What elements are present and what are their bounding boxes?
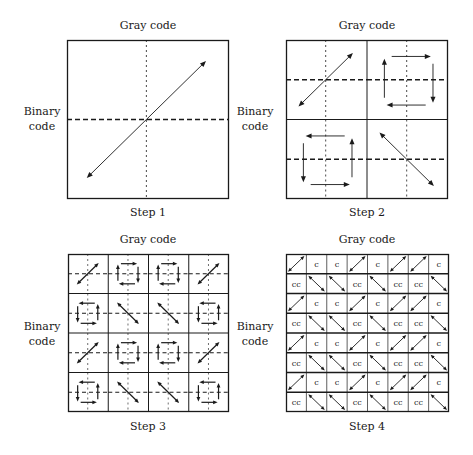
arrowhead xyxy=(79,301,84,305)
cell-double-arrow-antidiagonal-icon xyxy=(308,355,324,371)
double-arrow-antidiagonal-icon xyxy=(370,394,386,410)
double-arrow-diagonal-icon xyxy=(77,263,99,284)
arrowhead xyxy=(156,265,160,270)
arrow-shaft xyxy=(290,337,302,349)
cycle-arrow-up xyxy=(96,383,100,399)
clockwise-label: c xyxy=(335,339,340,348)
clockwise-label: c xyxy=(335,299,340,308)
cell-counterclockwise-cycle-icon: cc xyxy=(394,398,403,407)
double-arrow-diagonal-icon xyxy=(390,296,406,312)
cycle-arrow-down xyxy=(176,267,180,283)
cell-double-arrow-antidiagonal-icon xyxy=(370,315,386,331)
arrow-shaft xyxy=(433,357,445,369)
arrow-shaft xyxy=(412,376,424,388)
arrowhead xyxy=(306,133,312,138)
double-arrow-diagonal-icon xyxy=(390,375,406,391)
double-arrow-antidiagonal-icon xyxy=(431,394,447,410)
double-arrow-antidiagonal-icon xyxy=(370,315,386,331)
cycle-arrow-left xyxy=(79,301,95,305)
double-arrow-diagonal-icon xyxy=(410,296,426,312)
clockwise-cycle-icon xyxy=(382,54,436,108)
arrowhead xyxy=(430,97,435,103)
arrowhead xyxy=(213,321,218,325)
arrowhead xyxy=(76,397,80,402)
clockwise-label: c xyxy=(314,260,319,269)
step4-gray-code-label: Gray code xyxy=(286,233,448,246)
double-arrow-diagonal-icon xyxy=(288,375,304,391)
cell-double-arrow-diagonal-icon xyxy=(288,256,304,272)
arrow-shaft xyxy=(392,376,404,388)
cell-clockwise-cycle-icon: c xyxy=(314,378,319,387)
cycle-arrow-right xyxy=(121,262,137,266)
cycle-arrow-right xyxy=(161,262,177,266)
double-arrow-antidiagonal-icon xyxy=(308,355,324,371)
double-arrow-diagonal-icon xyxy=(349,375,365,391)
step1-binary-label: Binary xyxy=(12,105,72,118)
arrowhead xyxy=(79,380,84,384)
cycle-arrow-down xyxy=(136,267,140,283)
double-arrow-diagonal-icon xyxy=(77,342,99,363)
arrow-shaft xyxy=(392,297,404,309)
cell-counterclockwise-cycle-icon xyxy=(189,294,229,334)
arrow-shaft xyxy=(412,258,424,270)
arrow-shaft xyxy=(331,396,343,408)
double-arrow-antidiagonal-icon xyxy=(370,276,386,292)
arrowhead xyxy=(197,318,201,323)
step2-gray-code-label: Gray code xyxy=(286,19,448,32)
step2-panel xyxy=(286,40,448,199)
arrowhead xyxy=(199,301,204,305)
arrow-shaft xyxy=(433,396,445,408)
cell-counterclockwise-cycle-icon xyxy=(286,120,367,200)
cell-double-arrow-antidiagonal-icon xyxy=(431,355,447,371)
cell-double-arrow-diagonal-icon xyxy=(189,333,229,373)
arrowhead xyxy=(76,318,80,323)
cell-clockwise-cycle-icon: c xyxy=(335,299,340,308)
cell-clockwise-cycle-icon xyxy=(149,254,189,294)
double-arrow-diagonal-icon xyxy=(410,256,426,272)
arrowhead xyxy=(387,103,393,108)
cell-clockwise-cycle-icon: c xyxy=(335,339,340,348)
counterclockwise-label: cc xyxy=(292,359,301,368)
cell-double-arrow-diagonal-icon xyxy=(288,375,304,391)
cell-double-arrow-diagonal-icon xyxy=(410,335,426,351)
arrow-shaft xyxy=(331,278,343,290)
cell-counterclockwise-cycle-icon: cc xyxy=(292,359,301,368)
cycle-arrow-up xyxy=(156,344,160,360)
clockwise-label: c xyxy=(314,299,319,308)
arrow-shaft xyxy=(392,258,404,270)
step4-panel: cccccccccccccccccccccccccccccccccccccccc… xyxy=(286,254,449,412)
cell-clockwise-cycle-icon: c xyxy=(437,260,442,269)
cycle-arrow-up xyxy=(156,265,160,281)
arrow-shaft xyxy=(433,317,445,329)
double-arrow-diagonal-icon xyxy=(198,263,220,284)
arrowhead xyxy=(136,357,140,362)
step3-binary-label: Binary xyxy=(12,320,72,333)
cell-clockwise-cycle-icon: c xyxy=(314,339,319,348)
arrow-shaft xyxy=(372,396,384,408)
cycle-arrow-right xyxy=(392,54,431,59)
cell-double-arrow-antidiagonal-icon xyxy=(149,373,189,413)
step4-binary-label: Binary xyxy=(225,320,285,333)
cell-clockwise-cycle-icon: c xyxy=(375,378,380,387)
arrow-shaft xyxy=(412,297,424,309)
cell-double-arrow-antidiagonal-icon xyxy=(149,294,189,334)
clockwise-label: c xyxy=(437,378,442,387)
cycle-arrow-left xyxy=(159,361,175,365)
arrowhead xyxy=(159,282,164,286)
arrowhead xyxy=(344,182,350,187)
arrow-shaft xyxy=(290,297,302,309)
cycle-arrow-down xyxy=(301,143,306,182)
cycle-arrow-down xyxy=(76,385,80,401)
clockwise-label: c xyxy=(375,339,380,348)
step1-code-label: code xyxy=(12,120,72,133)
double-arrow-antidiagonal-icon xyxy=(329,276,345,292)
double-arrow-diagonal-icon xyxy=(349,296,365,312)
double-arrow-antidiagonal-icon xyxy=(370,355,386,371)
double-arrow-antidiagonal-icon xyxy=(117,382,139,403)
step3-gray-code-label: Gray code xyxy=(67,233,229,246)
arrowhead xyxy=(173,341,178,345)
arrow-shaft xyxy=(310,396,322,408)
cell-double-arrow-antidiagonal-icon xyxy=(108,294,148,334)
counterclockwise-label: cc xyxy=(353,280,362,289)
cell-double-arrow-antidiagonal-icon xyxy=(329,276,345,292)
